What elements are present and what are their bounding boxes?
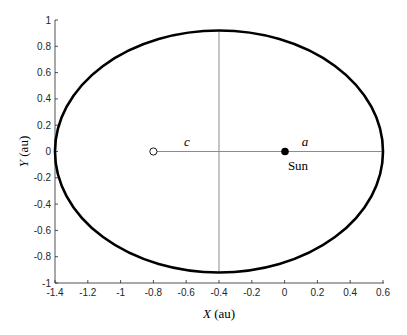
x-tick-label: -0.2 <box>243 287 261 298</box>
axes: -1.4-1.2-1-0.8-0.6-0.4-0.200.20.40.6 10.… <box>34 15 391 299</box>
y-tick-label: 1 <box>45 15 51 26</box>
x-tick-label: -1 <box>116 287 125 298</box>
x-tick-label: 0.6 <box>376 287 390 298</box>
y-tick-label: -0.8 <box>34 251 52 262</box>
plot-area: c a Sun <box>55 30 383 273</box>
y-tick-label: 0.8 <box>37 41 51 52</box>
x-tick-label: 0.4 <box>343 287 357 298</box>
label-sun: Sun <box>288 158 309 173</box>
x-tick-label: -0.8 <box>145 287 163 298</box>
y-tick-label: -1 <box>42 278 51 289</box>
y-tick-label: -0.4 <box>34 199 52 210</box>
x-tick-label: -1.4 <box>46 287 64 298</box>
sun-marker <box>281 148 289 156</box>
x-tick-label: 0 <box>282 287 288 298</box>
x-tick-label: -0.4 <box>210 287 228 298</box>
orbit-chart: -1.4-1.2-1-0.8-0.6-0.4-0.200.20.40.6 10.… <box>0 0 407 335</box>
y-axis-title: Y (au) <box>16 136 31 167</box>
y-tick-label: 0 <box>45 146 51 157</box>
y-tick-label: 0.4 <box>37 93 51 104</box>
y-tick-label: -0.2 <box>34 172 52 183</box>
y-tick-label: 0.6 <box>37 67 51 78</box>
label-a: a <box>302 134 309 149</box>
y-axis-unit: (au) <box>16 136 31 160</box>
x-axis-unit: (au) <box>211 306 235 321</box>
x-axis-title: X (au) <box>202 306 235 321</box>
empty-focus-marker <box>150 148 157 155</box>
x-tick-label: -0.6 <box>178 287 196 298</box>
x-tick-label: 0.2 <box>310 287 324 298</box>
label-c: c <box>184 134 190 149</box>
y-tick-label: 0.2 <box>37 120 51 131</box>
x-tick-label: -1.2 <box>79 287 97 298</box>
y-tick-label: -0.6 <box>34 225 52 236</box>
